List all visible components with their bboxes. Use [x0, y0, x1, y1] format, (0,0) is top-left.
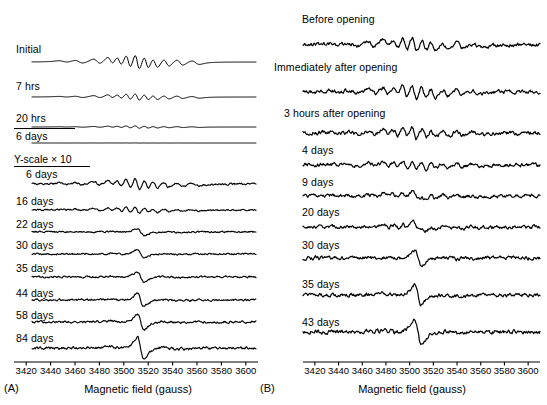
panel-a-tick-labels: 3420344034603480350035203540356035803600 [0, 365, 272, 377]
tick-label: 3600 [235, 365, 256, 376]
panel-b: Before opening Immediately after opening… [272, 0, 547, 405]
tick-label: 3420 [304, 365, 325, 376]
panel-b-axis-title: Magnetic field (gauss) [358, 383, 466, 395]
panel-a-tag: (A) [4, 382, 19, 394]
tick-label: 3440 [328, 365, 349, 376]
tick-label: 3520 [138, 365, 159, 376]
tick-label: 3500 [399, 365, 420, 376]
tick-label: 3540 [446, 365, 467, 376]
tick-label: 3480 [375, 365, 396, 376]
panel-b-tick-labels: 3420344034603480350035203540356035803600 [272, 365, 547, 377]
panel-a-axis-title: Magnetic field (gauss) [84, 383, 192, 395]
tick-label: 3560 [186, 365, 207, 376]
tick-label: 3420 [16, 365, 37, 376]
tick-label: 3580 [211, 365, 232, 376]
tick-label: 3500 [113, 365, 134, 376]
tick-label: 3460 [352, 365, 373, 376]
panel-a: Initial 7 hrs 20 hrs 6 days Y-scale × 10… [0, 0, 272, 405]
panel-b-axis [272, 0, 547, 405]
panel-b-tag: (B) [260, 382, 275, 394]
tick-label: 3600 [518, 365, 539, 376]
tick-label: 3480 [89, 365, 110, 376]
tick-label: 3440 [40, 365, 61, 376]
tick-label: 3580 [494, 365, 515, 376]
panel-a-axis-svg [0, 0, 272, 405]
panel-b-axis-svg [272, 0, 547, 405]
panel-a-axis [0, 0, 272, 405]
tick-label: 3560 [470, 365, 491, 376]
tick-label: 3520 [423, 365, 444, 376]
figure-root: Initial 7 hrs 20 hrs 6 days Y-scale × 10… [0, 0, 547, 405]
tick-label: 3460 [64, 365, 85, 376]
tick-label: 3540 [162, 365, 183, 376]
